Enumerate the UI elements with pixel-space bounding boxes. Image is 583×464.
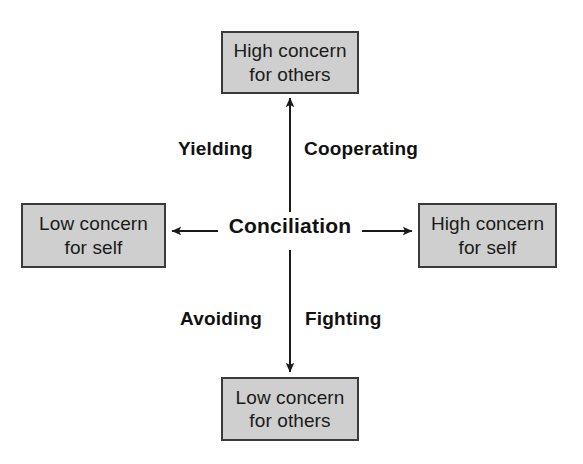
node-low-concern-for-others: Low concern for others — [221, 377, 359, 441]
node-label-line1: Low concern — [39, 212, 148, 235]
node-label-line2: for others — [249, 63, 330, 86]
node-high-concern-for-others: High concern for others — [221, 31, 359, 94]
quadrant-label-cooperating: Cooperating — [304, 138, 418, 160]
node-high-concern-for-self: High concern for self — [418, 203, 557, 268]
node-label-line2: for others — [249, 409, 330, 432]
node-low-concern-for-self: Low concern for self — [21, 203, 166, 268]
conciliation-diagram: High concern for others Low concern for … — [0, 0, 583, 464]
quadrant-label-fighting: Fighting — [305, 308, 382, 330]
quadrant-label-avoiding: Avoiding — [180, 308, 262, 330]
node-label-line1: High concern — [233, 39, 346, 62]
node-label-line2: for self — [65, 236, 123, 259]
node-label-line1: High concern — [431, 212, 544, 235]
center-label-conciliation: Conciliation — [218, 214, 362, 238]
node-label-line2: for self — [459, 236, 517, 259]
node-label-line1: Low concern — [236, 386, 345, 409]
quadrant-label-yielding: Yielding — [178, 138, 253, 160]
